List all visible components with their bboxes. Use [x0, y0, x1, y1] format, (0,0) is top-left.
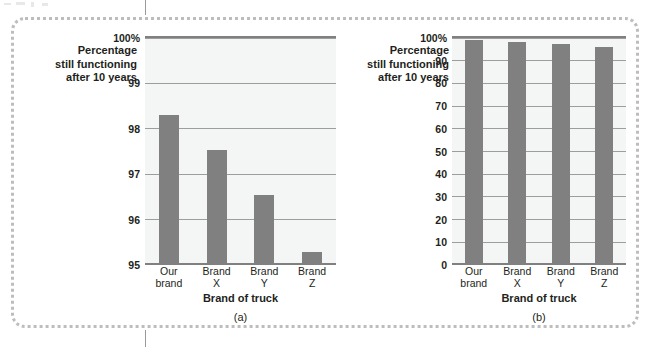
x-axis-tick-line: Y: [547, 277, 575, 289]
y-axis-tick-label: 20: [435, 214, 447, 225]
x-axis-title-b: Brand of truck: [452, 292, 626, 304]
y-axis-tick-label: 99: [128, 78, 140, 89]
scan-artifact: [16, 2, 25, 5]
y-axis-tick-label: 95: [128, 260, 140, 271]
scan-artifact: [42, 3, 48, 6]
y-axis-label-line: Percentage: [32, 44, 137, 58]
scan-artifact: [31, 2, 34, 7]
x-axis-tick-line: Brand: [298, 265, 326, 277]
x-axis-tick-line: Z: [298, 277, 326, 289]
bar: [552, 44, 570, 263]
x-axis-tick-line: Z: [590, 277, 618, 289]
gridline: [452, 38, 626, 39]
x-axis-tick-line: brand: [460, 277, 487, 289]
x-axis-title-a: Brand of truck: [145, 292, 336, 304]
x-axis-tick-label: Ourbrand: [155, 265, 182, 289]
y-axis-tick-label: 0: [441, 260, 447, 271]
x-axis-tick-line: Brand: [250, 265, 278, 277]
x-axis-tick-label: BrandX: [503, 265, 531, 289]
bar: [595, 47, 613, 263]
y-axis-tick-label: 40: [435, 169, 447, 180]
scan-artifact: [4, 3, 11, 5]
y-axis-tick-label: 60: [435, 123, 447, 134]
y-axis-tick-label: 90: [435, 55, 447, 66]
y-axis-label-b: Percentage still functioning after 10 ye…: [344, 44, 449, 85]
y-axis-label-line: still functioning: [344, 58, 449, 72]
y-axis-tick-label: 100%: [420, 33, 447, 44]
plot-area-b: 0102030405060708090100%: [452, 36, 626, 263]
x-axis-tick-label: BrandZ: [590, 265, 618, 289]
x-axis-tick-line: Our: [155, 265, 182, 277]
x-axis-tick-line: Brand: [503, 265, 531, 277]
y-axis-tick-label: 98: [128, 123, 140, 134]
chart-panel-b: Percentage still functioning after 10 ye…: [341, 17, 639, 328]
gridline: [145, 83, 336, 84]
y-axis-label-line: still functioning: [32, 58, 137, 72]
x-axis-tick-line: Brand: [547, 265, 575, 277]
y-axis-tick-label: 80: [435, 78, 447, 89]
chart-panel-a: Percentage still functioning after 10 ye…: [11, 17, 341, 328]
x-axis-tick-label: BrandX: [203, 265, 231, 289]
y-axis-tick-label: 70: [435, 101, 447, 112]
plot-area-a: 9596979899100%: [145, 36, 336, 263]
bar: [254, 195, 274, 263]
bar: [465, 40, 483, 263]
y-axis-label-line: Percentage: [344, 44, 449, 58]
x-axis-tick-line: Brand: [590, 265, 618, 277]
x-axis-tick-line: X: [503, 277, 531, 289]
y-axis-label-line: after 10 years: [32, 71, 137, 85]
y-axis-tick-label: 96: [128, 214, 140, 225]
bar: [508, 42, 526, 263]
x-axis-tick-line: Brand: [203, 265, 231, 277]
x-axis-tick-line: Y: [250, 277, 278, 289]
panel-caption-b: (b): [452, 311, 626, 323]
y-axis-tick-label: 97: [128, 169, 140, 180]
y-axis-tick-label: 50: [435, 146, 447, 157]
x-axis-tick-label: Ourbrand: [460, 265, 487, 289]
x-axis-tick-line: X: [203, 277, 231, 289]
y-axis-label-line: after 10 years: [344, 71, 449, 85]
x-axis-tick-label: BrandY: [250, 265, 278, 289]
bar: [302, 252, 322, 263]
x-axis-tick-line: Our: [460, 265, 487, 277]
x-axis-tick-line: brand: [155, 277, 182, 289]
y-axis-tick-label: 30: [435, 191, 447, 202]
panel-caption-a: (a): [145, 311, 336, 323]
bar: [159, 115, 179, 263]
margin-rule: [145, 330, 146, 347]
x-axis-tick-label: BrandY: [547, 265, 575, 289]
margin-rule: [145, 0, 146, 15]
gridline: [145, 38, 336, 39]
x-axis-tick-label: BrandZ: [298, 265, 326, 289]
y-axis-label-a: Percentage still functioning after 10 ye…: [32, 44, 137, 85]
y-axis-tick-label: 10: [435, 237, 447, 248]
bar: [207, 150, 227, 264]
y-axis-tick-label: 100%: [113, 33, 140, 44]
